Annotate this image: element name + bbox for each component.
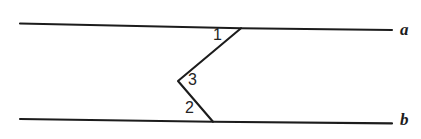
line-label-a: a <box>400 21 409 38</box>
figure-canvas <box>0 0 421 139</box>
line-label-b: b <box>400 111 409 128</box>
angle-label-3: 3 <box>188 72 197 88</box>
line-a-stroke <box>20 24 392 31</box>
line-b-stroke <box>20 119 392 123</box>
angle-label-2: 2 <box>185 100 194 116</box>
geometry-figure: 1 3 2 a b <box>0 0 421 139</box>
angle-label-1: 1 <box>213 27 222 43</box>
